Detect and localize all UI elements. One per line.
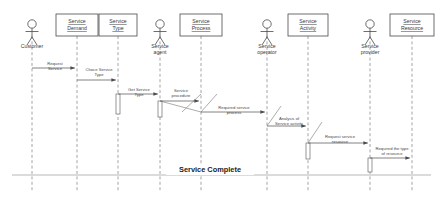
return-line-r5 — [160, 101, 201, 112]
message-label: Type — [134, 92, 144, 97]
participant-label-service-activity: Activity — [300, 25, 317, 31]
message-label: of resource — [382, 151, 404, 156]
activation-bar — [158, 101, 162, 117]
participant-service-agent[interactable]: Serviceagent — [151, 20, 168, 56]
participant-label-service-process: Service — [192, 18, 209, 24]
participant-label-service-agent: agent — [154, 49, 168, 55]
participant-label-service-type: Type — [112, 25, 123, 31]
service-complete-label: Service Complete — [179, 165, 241, 174]
message-m5: Required serviceprocess — [201, 105, 265, 115]
return-line-r2 — [201, 94, 217, 112]
activation-bar — [306, 143, 310, 159]
participant-label-customer: Customer — [21, 43, 44, 49]
messages-layer: RequestServiceChoce ServiceTypeGet Servi… — [32, 61, 410, 158]
participant-service-provider[interactable]: Serviceprovider — [361, 20, 380, 56]
participant-customer[interactable]: Customer — [21, 20, 44, 49]
actor-figure-icon — [263, 20, 271, 28]
participant-label-service-operator: Service — [258, 43, 275, 49]
activation-bar — [116, 94, 120, 114]
participant-label-service-process: Process — [192, 25, 211, 31]
participant-label-service-demand: Demand — [67, 25, 87, 31]
participant-label-service-agent: Service — [151, 43, 168, 49]
message-m3: Get ServiceType — [118, 87, 158, 97]
participant-label-service-provider: Service — [361, 43, 378, 49]
message-m8: Required the typeof resource — [370, 146, 410, 158]
return-line-r4 — [308, 122, 322, 143]
message-label: Service activity — [275, 121, 304, 126]
sequence-diagram-canvas: CustomerServiceDemandServiceTypeServicea… — [0, 0, 443, 201]
message-m4: Serviceprocedure — [160, 88, 199, 101]
participant-label-service-demand: Service — [68, 18, 85, 24]
message-m2: Choce ServiceType — [77, 67, 116, 80]
message-label: Type — [94, 72, 104, 77]
participant-label-service-resource: Resource — [401, 25, 423, 31]
message-label: process — [227, 110, 242, 115]
participant-service-demand[interactable]: ServiceDemand — [56, 14, 98, 36]
participant-service-operator[interactable]: Serviceoperator — [257, 20, 277, 56]
participant-label-service-type: Service — [109, 18, 126, 24]
actor-figure-icon — [366, 20, 374, 28]
participant-label-service-resource: Service — [403, 18, 420, 24]
message-label: Service — [48, 66, 63, 71]
participant-label-service-activity: Service — [299, 18, 316, 24]
participant-service-resource[interactable]: ServiceResource — [390, 14, 434, 36]
participants-layer: CustomerServiceDemandServiceTypeServicea… — [21, 14, 434, 55]
actor-figure-icon — [28, 20, 36, 28]
message-label: procedure — [172, 93, 192, 98]
participant-service-type[interactable]: ServiceType — [99, 14, 137, 36]
activation-bar — [368, 158, 372, 172]
participant-label-service-operator: operator — [257, 49, 277, 55]
participant-service-activity[interactable]: ServiceActivity — [288, 14, 328, 36]
actor-figure-icon — [156, 20, 164, 28]
diagram-svg: CustomerServiceDemandServiceTypeServicea… — [0, 0, 443, 201]
message-label: resource — [332, 139, 349, 144]
message-m7: Request serviceresource — [308, 134, 368, 144]
participant-service-process[interactable]: ServiceProcess — [180, 14, 222, 36]
message-m1: RequestService — [32, 61, 75, 71]
participant-label-service-provider: provider — [361, 49, 380, 55]
